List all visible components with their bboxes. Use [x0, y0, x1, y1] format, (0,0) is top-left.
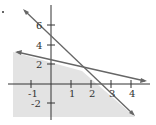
bullet-dot — [2, 11, 4, 13]
arrow-head-icon — [140, 78, 147, 83]
x-tick-label: 3 — [109, 88, 115, 99]
y-tick-label: -2 — [31, 98, 41, 109]
x-tick-label: 4 — [129, 88, 135, 99]
x-tick-label: 1 — [69, 88, 75, 99]
y-tick-label: 6 — [36, 20, 42, 31]
y-tick-label: 4 — [36, 40, 42, 51]
y-tick-label: 2 — [36, 59, 42, 70]
inequality-graph: -11234642-2 — [0, 0, 156, 125]
x-tick-label: 2 — [89, 88, 95, 99]
